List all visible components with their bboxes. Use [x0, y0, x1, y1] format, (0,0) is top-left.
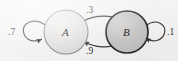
transition-label-b-to-b: .1	[167, 28, 175, 38]
state-label-a: A	[62, 27, 69, 38]
state-label-b: B	[123, 27, 130, 38]
transition-a-to-a	[23, 21, 45, 41]
transition-label-b-to-a: .9	[86, 47, 94, 57]
state-diagram: A B .7 .3 .9 .1	[0, 0, 178, 61]
self-loop-a-path	[23, 21, 45, 41]
transition-label-a-to-b: .3	[86, 6, 94, 16]
transition-label-a-to-a: .7	[8, 28, 16, 38]
